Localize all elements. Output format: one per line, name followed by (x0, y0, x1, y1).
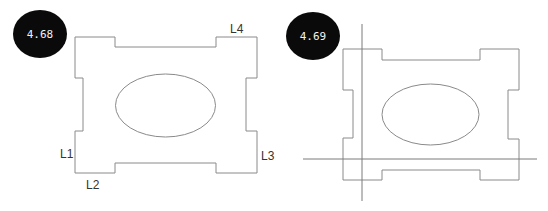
figure-4-69: 4.69 (286, 12, 537, 201)
edge-label-l1: L1 (60, 147, 74, 161)
edge-label-l3: L3 (261, 149, 275, 163)
figure-number-label: 4.69 (300, 30, 327, 43)
edge-label-l2: L2 (86, 178, 100, 192)
figure-number-label: 4.68 (27, 28, 54, 41)
elliptical-hole (382, 84, 479, 145)
edge-label-l4: L4 (230, 22, 244, 36)
part-outline (75, 37, 257, 173)
figure-4-68: 4.68 L1 L2 L3 L4 (13, 10, 275, 192)
part-outline (343, 49, 519, 180)
diagram-canvas: 4.68 L1 L2 L3 L4 4.69 (0, 0, 548, 211)
elliptical-hole (116, 74, 216, 137)
